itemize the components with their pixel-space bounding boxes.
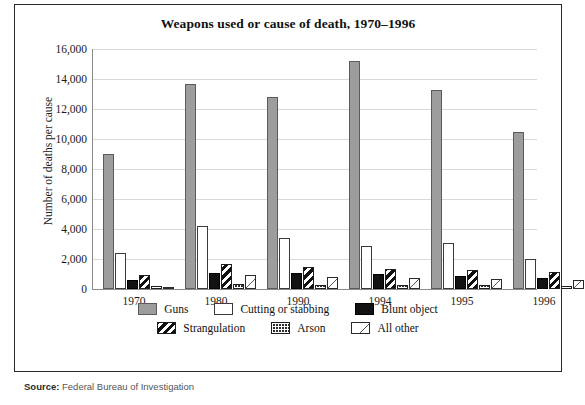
bar-group-1970: 1970 (93, 49, 175, 289)
bar-guns-1970 (103, 154, 114, 289)
bar-strangulation-1994 (385, 269, 396, 289)
legend-item-guns[interactable]: Guns (138, 303, 188, 315)
bar-guns-1995 (431, 90, 442, 290)
bar-all-other-1990 (327, 277, 338, 289)
y-axis-tick-label: 6,000 (61, 193, 87, 205)
legend-item-arson[interactable]: Arson (271, 322, 325, 334)
legend-swatch-icon (351, 322, 370, 334)
bar-group-1990: 1990 (257, 49, 339, 289)
legend-label: Strangulation (183, 322, 245, 334)
chart-frame: Weapons used or cause of death, 1970–199… (14, 4, 562, 372)
bar-group-1994: 1994 (339, 49, 421, 289)
bar-blunt-object-1990 (291, 273, 302, 289)
source-text: Federal Bureau of Investigation (62, 381, 194, 392)
legend-swatch-icon (157, 322, 176, 334)
bar-arson-1994 (397, 285, 408, 290)
legend-label: Blunt object (381, 303, 438, 315)
bar-strangulation-1990 (303, 267, 314, 289)
bar-all-other-1970 (163, 287, 174, 289)
bar-guns-1990 (267, 97, 278, 289)
legend-label: All other (377, 322, 418, 334)
bar-cutting-or-stabbing-1996 (525, 259, 536, 289)
legend-item-blunt-object[interactable]: Blunt object (355, 303, 438, 315)
legend-swatch-icon (138, 303, 157, 315)
bar-arson-1996 (561, 286, 572, 289)
y-axis-tick-label: 8,000 (61, 163, 87, 175)
legend-item-strangulation[interactable]: Strangulation (157, 322, 245, 334)
bar-cutting-or-stabbing-1995 (443, 243, 454, 290)
legend-row-bottom: StrangulationArsonAll other (29, 322, 547, 334)
bar-blunt-object-1996 (537, 278, 548, 289)
bar-all-other-1995 (491, 279, 502, 290)
legend-label: Cutting or stabbing (240, 303, 329, 315)
legend-swatch-icon (214, 303, 233, 315)
legend-swatch-icon (355, 303, 374, 315)
bar-arson-1980 (233, 284, 244, 289)
legend-row-top: GunsCutting or stabbingBlunt object (29, 303, 547, 315)
bar-arson-1995 (479, 285, 490, 289)
plot-area: 02,0004,0006,0008,00010,00012,00014,0001… (92, 49, 537, 290)
bar-group-1996: 1996 (503, 49, 585, 289)
bar-strangulation-1970 (139, 275, 150, 289)
legend-item-all-other[interactable]: All other (351, 322, 418, 334)
y-axis-tick-label: 14,000 (55, 73, 87, 85)
y-axis-tick-label: 2,000 (61, 253, 87, 265)
bar-blunt-object-1980 (209, 273, 220, 290)
y-axis-tick-label: 16,000 (55, 43, 87, 55)
bar-cutting-or-stabbing-1980 (197, 226, 208, 289)
bar-cutting-or-stabbing-1994 (361, 246, 372, 290)
source-note: Source: Federal Bureau of Investigation (24, 381, 194, 392)
legend-label: Guns (164, 303, 188, 315)
bar-strangulation-1996 (549, 272, 560, 289)
y-axis-tick-label: 10,000 (55, 133, 87, 145)
bar-all-other-1996 (573, 280, 584, 289)
legend-swatch-icon (271, 322, 290, 334)
source-label: Source: (24, 381, 59, 392)
y-axis-title: Number of deaths per cause (42, 66, 54, 256)
y-axis-tick-label: 12,000 (55, 103, 87, 115)
bar-groups: 197019801990199419951996 (93, 49, 537, 289)
legend-item-cutting-or-stabbing[interactable]: Cutting or stabbing (214, 303, 329, 315)
bar-guns-1994 (349, 61, 360, 289)
bar-all-other-1994 (409, 278, 420, 289)
bar-strangulation-1980 (221, 264, 232, 290)
bar-strangulation-1995 (467, 270, 478, 289)
bar-guns-1980 (185, 84, 196, 290)
bar-arson-1970 (151, 286, 162, 289)
bar-group-1995: 1995 (421, 49, 503, 289)
bar-guns-1996 (513, 132, 524, 290)
bar-arson-1990 (315, 285, 326, 290)
bar-blunt-object-1970 (127, 280, 138, 289)
bar-cutting-or-stabbing-1990 (279, 238, 290, 289)
legend-label: Arson (297, 322, 325, 334)
bar-group-1980: 1980 (175, 49, 257, 289)
page-title: Weapons used or cause of death, 1970–199… (15, 16, 561, 32)
bar-blunt-object-1994 (373, 274, 384, 289)
bar-blunt-object-1995 (455, 276, 466, 290)
y-axis-tick-label: 4,000 (61, 223, 87, 235)
y-axis-tick-label: 0 (81, 283, 87, 295)
chart-legend: GunsCutting or stabbingBlunt object Stra… (29, 303, 547, 341)
bar-all-other-1980 (245, 275, 256, 289)
bar-cutting-or-stabbing-1970 (115, 253, 126, 289)
